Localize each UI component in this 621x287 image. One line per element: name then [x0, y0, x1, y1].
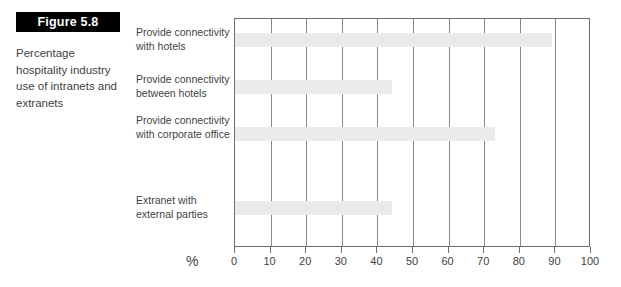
tick-label: 100	[581, 255, 599, 267]
tick-label: 30	[335, 255, 347, 267]
tick-label: 70	[477, 255, 489, 267]
x-axis-label: %	[186, 253, 198, 269]
tick-mark	[483, 247, 484, 253]
plot-area	[234, 18, 590, 247]
tick-label: 90	[548, 255, 560, 267]
tick-label: 40	[370, 255, 382, 267]
tick-mark	[448, 247, 449, 253]
tick-label: 20	[299, 255, 311, 267]
tick-mark	[554, 247, 555, 253]
category-label: Provide connectivity with corporate offi…	[136, 114, 234, 141]
figure-caption-column: Figure 5.8 Percentage hospitality indust…	[0, 0, 130, 287]
category-label: Extranet with external parties	[136, 194, 234, 221]
bar	[235, 33, 552, 47]
tick-mark	[519, 247, 520, 253]
x-axis-ticks: 0102030405060708090100	[234, 247, 590, 287]
category-label: Provide connectivity between hotels	[136, 73, 234, 100]
tick-mark	[341, 247, 342, 253]
tick-mark	[234, 247, 235, 253]
tick-label: 80	[513, 255, 525, 267]
bar	[235, 80, 392, 94]
bar	[235, 201, 392, 215]
figure-caption-text: Percentage hospitality industry use of i…	[16, 45, 128, 111]
tick-mark	[590, 247, 591, 253]
category-label: Provide connectivity with hotels	[136, 26, 234, 53]
gridline	[520, 19, 521, 246]
tick-label: 50	[406, 255, 418, 267]
bar-chart: Provide connectivity with hotels Provide…	[130, 0, 621, 287]
category-label-list: Provide connectivity with hotels Provide…	[130, 0, 234, 250]
bar	[235, 127, 495, 141]
tick-mark	[305, 247, 306, 253]
tick-mark	[376, 247, 377, 253]
tick-mark	[270, 247, 271, 253]
tick-label: 0	[231, 255, 237, 267]
tick-mark	[412, 247, 413, 253]
figure-number-banner: Figure 5.8	[16, 12, 120, 32]
tick-label: 10	[263, 255, 275, 267]
tick-label: 60	[441, 255, 453, 267]
gridline	[555, 19, 556, 246]
